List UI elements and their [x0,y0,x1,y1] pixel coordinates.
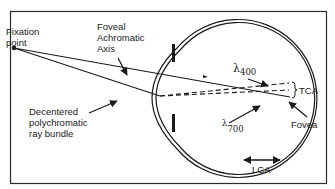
foveal-axis-label-line-3: Axis [97,43,145,54]
diagram-canvas [0,0,335,189]
fixation-point-label-line-1: Fixation [6,26,39,37]
iris-lower [172,114,175,132]
cornea [152,47,181,150]
fixation-point-label: Fixation point [6,26,39,48]
eyeball [178,20,317,178]
lambda-symbol: λ [233,62,240,75]
nodal-point-mark [203,75,208,78]
decentered-bundle-arrow [89,101,117,113]
tca-label: TCA [299,85,318,96]
fovea-arrow [289,102,307,117]
foveal-axis-label: Foveal Achromatic Axis [97,21,145,54]
lambda-400-label: λ400 [233,63,256,75]
lambda-700-label: λ700 [222,120,244,132]
iris-upper [172,44,175,62]
foveal-axis-label-line-2: Achromatic [97,32,145,43]
decentered-bundle-label-line-3: ray bundle [29,128,88,139]
foveal-axis-label-line-1: Foveal [97,21,145,32]
decentered-bundle-label-line-1: Decentered [29,106,88,117]
lambda-400-arrow [248,79,268,86]
decentered-ray-incoming [14,48,160,96]
tca-brace [292,82,297,98]
decentered-bundle-label-line-2: polychromatic [29,117,88,128]
lca-label: LCA [252,164,270,175]
lambda-400-value: 400 [240,67,256,77]
decentered-bundle-label: Decentered polychromatic ray bundle [29,106,88,139]
fovea-label: Fovea [291,119,317,130]
fixation-point-label-line-2: point [6,37,39,48]
lambda-700-value: 700 [227,124,243,134]
figure-border [11,12,327,184]
